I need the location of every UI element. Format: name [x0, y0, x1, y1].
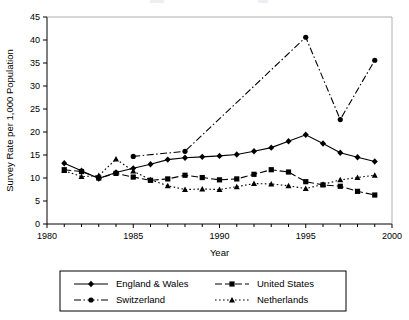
series-1-point-8 — [200, 175, 205, 180]
series-1-point-9 — [217, 177, 222, 182]
series-0-point-9 — [217, 153, 223, 159]
series-0-point-0 — [61, 160, 67, 166]
line-chart: 05101520253035404519801985199019952000Ye… — [0, 0, 409, 320]
x-tick-label: 2000 — [382, 231, 402, 241]
series-0-point-16 — [337, 150, 343, 156]
series-0-point-17 — [355, 154, 361, 160]
x-tick-label: 1995 — [296, 231, 316, 241]
series-1-point-12 — [269, 167, 274, 172]
legend-label-3: Netherlands — [257, 294, 308, 305]
series-3-point-14 — [303, 185, 309, 191]
series-1-point-11 — [251, 172, 256, 177]
series-1-point-3 — [113, 171, 118, 176]
y-tick-label: 5 — [35, 196, 40, 206]
series-3-point-3 — [113, 156, 119, 162]
chart-figure: 05101520253035404519801985199019952000Ye… — [0, 0, 409, 320]
series-2-point-2 — [303, 35, 308, 40]
y-tick-label: 40 — [30, 35, 40, 45]
y-tick-label: 25 — [30, 104, 40, 114]
series-1-point-14 — [303, 179, 308, 184]
series-0-point-6 — [165, 156, 171, 162]
series-2-point-3 — [338, 117, 343, 122]
series-2-point-0 — [131, 154, 136, 159]
series-0-point-7 — [182, 155, 188, 161]
series-3-point-8 — [199, 186, 205, 192]
series-1-point-16 — [338, 184, 343, 189]
series-3-point-6 — [165, 183, 171, 189]
series-1-point-6 — [165, 176, 170, 181]
y-axis-title: Survey Rate per 1,000 Population — [4, 49, 15, 192]
series-1-point-17 — [355, 189, 360, 194]
y-tick-label: 10 — [30, 173, 40, 183]
legend-label-1: United States — [257, 278, 314, 289]
legend-marker-1 — [229, 281, 234, 286]
series-3-point-18 — [372, 172, 378, 178]
series-0-point-11 — [251, 148, 257, 154]
y-tick-label: 35 — [30, 58, 40, 68]
series-2-point-4 — [372, 58, 377, 63]
title-remnant — [150, 0, 164, 3]
series-1-point-10 — [234, 176, 239, 181]
y-tick-label: 45 — [30, 12, 40, 22]
y-tick-label: 30 — [30, 81, 40, 91]
series-0-point-14 — [303, 132, 309, 138]
series-2-point-1 — [182, 149, 187, 154]
series-0-point-8 — [199, 154, 205, 160]
series-3-point-11 — [251, 180, 257, 186]
series-3-point-13 — [286, 183, 292, 189]
x-axis-title: Year — [210, 247, 229, 258]
series-0-point-18 — [372, 158, 378, 164]
legend-marker-2 — [88, 297, 93, 302]
series-1-point-1 — [79, 169, 84, 174]
title-remnant — [258, 0, 268, 3]
legend-label-2: Switzerland — [116, 294, 165, 305]
legend-label-0: England & Wales — [116, 278, 189, 289]
series-0-point-12 — [268, 144, 274, 150]
series-3-point-10 — [234, 184, 240, 190]
series-1-point-18 — [372, 192, 377, 197]
series-line-2 — [133, 37, 375, 156]
series-3-point-16 — [337, 177, 343, 183]
series-0-point-10 — [234, 151, 240, 157]
series-0-point-13 — [286, 138, 292, 144]
y-tick-label: 20 — [30, 127, 40, 137]
series-1-point-13 — [286, 169, 291, 174]
series-0-point-15 — [320, 140, 326, 146]
series-0-point-5 — [148, 161, 154, 167]
y-tick-label: 15 — [30, 150, 40, 160]
series-1-point-4 — [131, 174, 136, 179]
y-tick-label: 0 — [35, 219, 40, 229]
x-tick-label: 1990 — [209, 231, 229, 241]
series-1-point-7 — [182, 173, 187, 178]
x-tick-label: 1985 — [123, 231, 143, 241]
x-tick-label: 1980 — [37, 231, 57, 241]
